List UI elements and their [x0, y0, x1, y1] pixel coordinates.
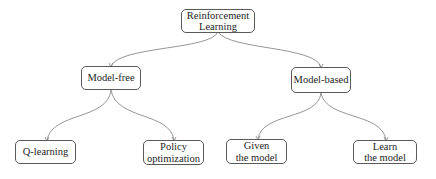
- node-learn-the-model: Learn the model: [353, 140, 417, 164]
- node-label-line: the model: [236, 152, 278, 164]
- node-label-line: Learning: [199, 21, 237, 33]
- node-label-line: the model: [364, 152, 406, 164]
- edge-model-free-to-policy-optimization: [111, 90, 174, 140]
- node-q-learning: Q-learning: [15, 140, 76, 164]
- node-label-line: Model-based: [294, 74, 349, 86]
- node-model-based: Model-based: [291, 67, 351, 93]
- node-label-line: Learn: [373, 141, 397, 153]
- node-label-line: Q-learning: [23, 146, 68, 158]
- node-label-line: optimization: [147, 153, 200, 165]
- edge-root-to-model-free: [111, 32, 218, 66]
- node-label-line: Policy: [160, 141, 187, 153]
- node-label-line: Model-free: [87, 72, 134, 84]
- rl-taxonomy-diagram: Reinforcement Learning Model-free Model-…: [0, 0, 436, 179]
- edge-model-based-to-given-model: [258, 93, 321, 139]
- node-label-line: Reinforcement: [187, 10, 249, 22]
- node-model-free: Model-free: [81, 66, 141, 90]
- node-label-line: Given: [244, 140, 270, 152]
- edge-root-to-model-based: [218, 32, 321, 67]
- node-reinforcement-learning: Reinforcement Learning: [181, 9, 255, 33]
- edge-model-free-to-q-learning: [47, 90, 111, 140]
- node-given-the-model: Given the model: [226, 139, 287, 164]
- node-policy-optimization: Policy optimization: [143, 140, 204, 165]
- edge-model-based-to-learn-model: [321, 93, 386, 140]
